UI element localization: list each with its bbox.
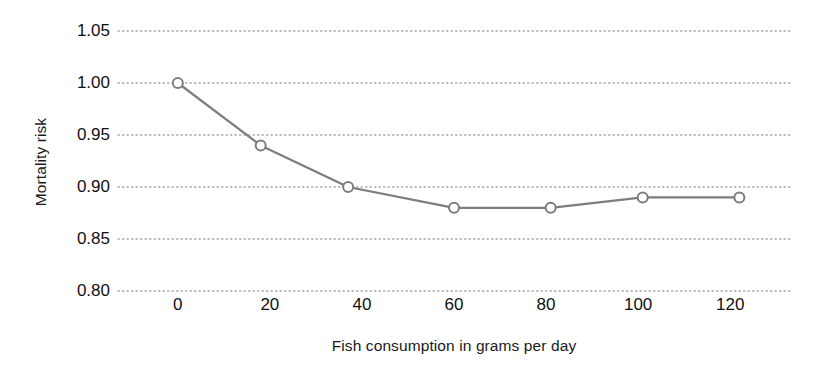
data-point-marker xyxy=(173,78,183,88)
data-point-marker xyxy=(734,192,744,202)
x-tick-label: 120 xyxy=(700,296,760,313)
y-tick-label: 1.05 xyxy=(40,22,110,39)
x-axis-title: Fish consumption in grams per day xyxy=(118,337,790,355)
y-tick-label: 0.90 xyxy=(40,178,110,195)
data-point-marker xyxy=(256,140,266,150)
x-tick-label: 0 xyxy=(148,296,208,313)
data-point-marker xyxy=(546,203,556,213)
mortality-risk-line-chart: Mortality risk 0.800.850.900.951.001.05 … xyxy=(0,0,826,378)
y-tick-label: 0.95 xyxy=(40,126,110,143)
data-point-marker xyxy=(638,192,648,202)
y-tick-label: 0.80 xyxy=(40,282,110,299)
x-tick-label: 20 xyxy=(240,296,300,313)
x-tick-label: 80 xyxy=(516,296,576,313)
series-markers xyxy=(173,78,745,213)
y-tick-label: 0.85 xyxy=(40,230,110,247)
plot-area xyxy=(0,0,826,378)
y-tick-label: 1.00 xyxy=(40,74,110,91)
x-tick-label: 40 xyxy=(332,296,392,313)
data-point-marker xyxy=(449,203,459,213)
gridlines xyxy=(118,31,790,291)
data-point-marker xyxy=(343,182,353,192)
x-tick-label: 100 xyxy=(608,296,668,313)
x-tick-label: 60 xyxy=(424,296,484,313)
